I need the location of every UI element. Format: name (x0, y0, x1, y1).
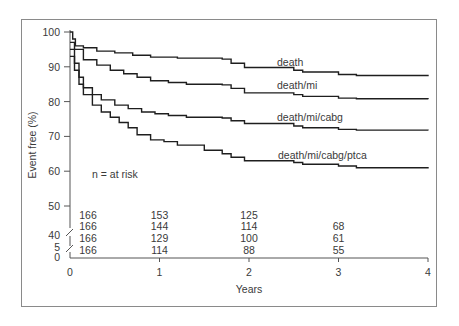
kaplan-meier-chart: 05405060708090100 01234 deathdeath/midea… (0, 0, 459, 326)
y-tick-label: 100 (42, 26, 60, 38)
y-tick-label: 80 (48, 96, 60, 108)
curve-label: death (277, 56, 303, 68)
x-tick-label: 2 (246, 266, 252, 278)
at-risk-value: 88 (243, 244, 255, 256)
curve-label: death/mi/cabg/ptca (278, 149, 367, 161)
axis-break-icon (66, 222, 73, 258)
at-risk-table: 1661531251661441146816612910061166114885… (79, 209, 344, 256)
x-ticks: 01234 (67, 258, 431, 278)
y-tick-label: 60 (48, 165, 60, 177)
x-tick-label: 1 (157, 266, 163, 278)
at-risk-value: 114 (241, 220, 258, 232)
at-risk-value: 166 (79, 232, 97, 244)
y-tick-label: 70 (48, 130, 60, 142)
x-tick-label: 0 (67, 266, 73, 278)
at-risk-value: 129 (151, 232, 169, 244)
y-tick-label: 50 (48, 200, 60, 212)
curve-label: death/mi (277, 79, 317, 91)
y-tick-label: 90 (48, 61, 60, 73)
curve-death-mi (70, 42, 428, 99)
survival-curves (70, 32, 428, 168)
curve-death-mi-cabg (70, 49, 428, 130)
at-risk-value: 144 (151, 220, 169, 232)
x-axis-label: Years (236, 283, 262, 295)
x-tick-label: 3 (336, 266, 342, 278)
at-risk-annotation: n = at risk (92, 168, 139, 180)
at-risk-value: 68 (333, 220, 345, 232)
y-tick-label: 40 (48, 229, 60, 241)
at-risk-value: 114 (151, 244, 168, 256)
y-axis-label: Event free (%) (26, 111, 38, 178)
at-risk-value: 166 (79, 244, 97, 256)
at-risk-value: 100 (240, 232, 258, 244)
x-tick-label: 4 (425, 266, 431, 278)
at-risk-value: 166 (79, 220, 97, 232)
y-ticks: 05405060708090100 (42, 26, 70, 263)
curve-death (70, 32, 428, 76)
at-risk-value: 61 (333, 232, 345, 244)
at-risk-value: 55 (333, 244, 345, 256)
y-tick-label: 5 (54, 241, 60, 253)
curve-label: death/mi/cabg (277, 111, 343, 123)
